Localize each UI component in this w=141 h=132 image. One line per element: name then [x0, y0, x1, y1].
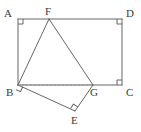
vertex-label-e: E	[71, 115, 78, 126]
geometry-canvas	[0, 0, 141, 132]
vertex-label-d: D	[126, 8, 134, 19]
geometry-figure: ADCBFGE	[0, 0, 141, 132]
vertex-label-b: B	[6, 87, 13, 98]
segment-F-G	[49, 19, 93, 85]
right-angle-C	[117, 80, 122, 85]
vertex-label-a: A	[4, 8, 12, 19]
solid-segments-group	[18, 19, 122, 111]
segment-B-E	[18, 85, 75, 111]
vertex-label-g: G	[90, 87, 98, 98]
segment-F-B	[18, 19, 49, 85]
right-angle-A	[18, 19, 23, 24]
right-angle-D	[117, 19, 122, 24]
vertex-label-f: F	[45, 6, 51, 17]
vertex-label-c: C	[126, 87, 133, 98]
right-angle-marks-group	[16, 19, 122, 111]
